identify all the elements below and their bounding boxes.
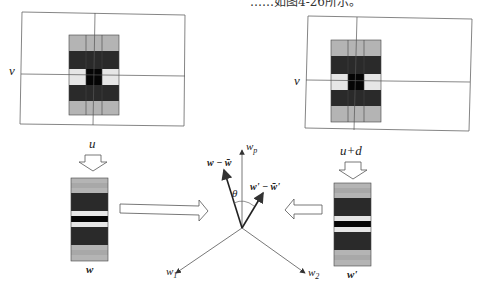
angle-label-theta: θ (232, 187, 238, 199)
left-vector-w (71, 178, 108, 261)
vector-label-w-minus-mean: w − w̄ (207, 157, 232, 168)
left-down-arrow-icon (79, 155, 107, 171)
angle-arc (234, 201, 254, 206)
right-image-frame (305, 16, 472, 131)
caption-fragment: ……如图4-26所示。 (250, 0, 361, 9)
right-down-arrow-icon (339, 162, 367, 179)
left-row-label-v: v (9, 63, 15, 78)
vector-w-prime-minus-mean (242, 193, 263, 228)
vector-w-minus-mean (224, 170, 242, 228)
axis-label-w1: w1 (166, 265, 177, 280)
axis-w2 (242, 228, 305, 273)
axis-label-w2: w2 (308, 266, 319, 281)
right-col-label-u-plus-d: u+d (340, 143, 362, 158)
left-image-frame (20, 12, 185, 126)
right-pointing-arrow-icon (120, 200, 208, 221)
axis-w1 (176, 228, 242, 273)
vector-label-w-prime-minus-mean: w' − w̄' (250, 181, 280, 192)
right-vector-w-prime (334, 183, 371, 266)
right-row-label-v: v (294, 73, 300, 88)
left-col-label-u: u (89, 136, 96, 151)
left-pointing-arrow-icon (285, 199, 322, 219)
left-vector-label-w: w (86, 263, 94, 275)
right-vector-label-w-prime: w' (347, 268, 357, 280)
axis-label-wp: wp (246, 140, 257, 155)
